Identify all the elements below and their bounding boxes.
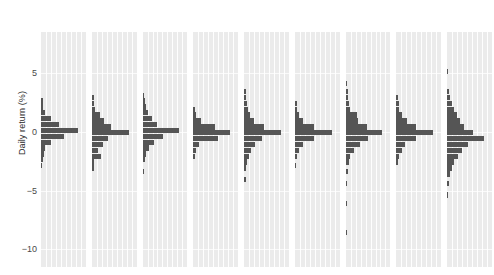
histogram-bar [346, 124, 367, 129]
histogram-bar [143, 145, 150, 150]
bar-group [295, 32, 340, 267]
histogram-bar [193, 112, 196, 117]
histogram-bar [396, 159, 398, 164]
histogram-bar [396, 124, 416, 129]
histogram-bar [447, 142, 468, 147]
histogram-bar [244, 154, 248, 159]
panel-2019: 2019 [295, 32, 340, 267]
histogram-bar [295, 118, 303, 123]
histogram-bar [143, 169, 144, 174]
histogram-bar [447, 124, 464, 129]
histogram-bar [143, 116, 153, 121]
histogram-bar [92, 112, 100, 117]
histogram-bar [41, 116, 51, 121]
histogram-bar [346, 101, 349, 106]
y-axis-tick-label: 0 [3, 127, 37, 137]
panel-2020: 2020 [346, 32, 391, 267]
histogram-bar [193, 154, 194, 159]
histogram-bar [143, 151, 147, 156]
histogram-bar [193, 130, 230, 135]
panel-2018: 2018 [244, 32, 289, 267]
histogram-bar [295, 154, 298, 159]
histogram-bar [346, 148, 354, 153]
histogram-bar [193, 118, 201, 123]
histogram-bar [244, 159, 247, 164]
histogram-bar [447, 69, 448, 74]
bar-group [41, 32, 86, 267]
histogram-bar [92, 118, 104, 123]
bar-group [193, 32, 238, 267]
histogram-bar [92, 136, 108, 141]
panel-2017: 2017 [193, 32, 238, 267]
histogram-bar [41, 110, 45, 115]
histogram-bar [92, 142, 103, 147]
histogram-bar [447, 136, 484, 141]
histogram-bar [143, 98, 145, 103]
histogram-bar [41, 145, 45, 150]
histogram-bar [447, 165, 451, 170]
histogram-bar [143, 93, 145, 98]
histogram-bar [295, 163, 296, 168]
histogram-bar [447, 148, 462, 153]
panel-2021: 2021 [396, 32, 441, 267]
histogram-bar [244, 118, 254, 123]
histogram-bar [244, 177, 245, 182]
histogram-bar [244, 165, 246, 170]
bar-group [396, 32, 441, 267]
histogram-bar [244, 130, 281, 135]
histogram-bar [447, 181, 449, 186]
histogram-bar [396, 148, 401, 153]
histogram-bar [346, 136, 368, 141]
histogram-bar [447, 130, 473, 135]
histogram-bar [41, 163, 42, 168]
bar-group [447, 32, 492, 267]
histogram-bar [346, 142, 361, 147]
histogram-bar [447, 192, 448, 197]
bar-group [346, 32, 391, 267]
histogram-bar [346, 154, 351, 159]
histogram-bar [41, 104, 43, 109]
histogram-bar [41, 98, 43, 103]
histogram-bar [92, 95, 94, 100]
histogram-bar [41, 140, 51, 145]
histogram-bar [396, 118, 407, 123]
histogram-bar [447, 95, 450, 100]
histogram-bar [346, 112, 357, 117]
histogram-bar [346, 201, 347, 206]
histogram-bar [193, 124, 215, 129]
bar-group [92, 32, 137, 267]
histogram-bar [41, 157, 43, 162]
histogram-bar [244, 95, 246, 100]
histogram-bar [396, 136, 415, 141]
histogram-bar [92, 154, 101, 159]
histogram-bar [346, 230, 347, 235]
histogram-bar [346, 159, 349, 164]
chart-root: Daily return (%) 50−5−10 201420152016201… [0, 0, 494, 275]
histogram-bar [92, 165, 94, 170]
histogram-bar [92, 159, 95, 164]
histogram-bar [143, 134, 164, 139]
histogram-bar [447, 118, 459, 123]
histogram-bar [244, 112, 250, 117]
bar-group [143, 32, 188, 267]
histogram-bar [244, 89, 245, 94]
histogram-bar [41, 128, 78, 133]
histogram-bar [193, 148, 196, 153]
histogram-bar [143, 104, 146, 109]
histogram-bar [295, 142, 303, 147]
histogram-bar [295, 130, 332, 135]
panel-2022: 2022 [447, 32, 492, 267]
histogram-bar [244, 107, 248, 112]
histogram-bar [244, 101, 247, 106]
histogram-bar [396, 130, 433, 135]
histogram-bar [346, 181, 347, 186]
histogram-bar [244, 148, 251, 153]
histogram-bar [295, 107, 297, 112]
histogram-bar [244, 142, 255, 147]
histogram-bar [92, 124, 111, 129]
histogram-bar [193, 142, 199, 147]
panel-2015: 2015 [92, 32, 137, 267]
histogram-bar [447, 171, 450, 176]
histogram-bar [295, 101, 297, 106]
histogram-bar [447, 107, 454, 112]
